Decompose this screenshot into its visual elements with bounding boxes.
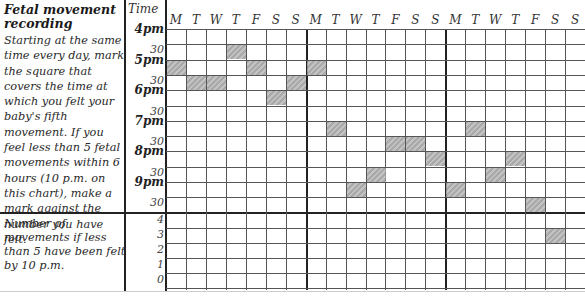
movement-mark[interactable] [347, 183, 366, 197]
grid-column-line [346, 29, 347, 290]
grid-column-line [286, 29, 287, 290]
day-header: F [525, 13, 545, 27]
grid-column-line [326, 29, 327, 290]
grid-row-line [166, 75, 585, 76]
grid-row-line [166, 60, 585, 61]
grid-column-line [485, 29, 486, 290]
time-label: 9pm [135, 175, 164, 189]
day-header: S [425, 13, 445, 27]
movement-mark[interactable] [227, 45, 246, 59]
movement-mark[interactable] [546, 229, 565, 243]
movement-mark[interactable] [267, 91, 286, 105]
day-header: F [246, 13, 266, 27]
time-label: 6pm [135, 83, 164, 97]
grid-row-line [166, 243, 585, 244]
grid-row-line [166, 121, 585, 122]
grid-row-line [166, 273, 585, 274]
grid-column-line [186, 29, 187, 290]
day-header: S [266, 13, 286, 27]
day-header: M [166, 13, 186, 27]
day-header: S [565, 13, 585, 27]
count-label: 0 [157, 273, 164, 286]
day-header: S [545, 13, 565, 27]
count-label: 4 [157, 213, 164, 226]
time-label: 7pm [135, 114, 164, 128]
movement-mark[interactable] [287, 76, 306, 90]
grid-row-line [166, 197, 585, 198]
grid-column-line [545, 29, 546, 290]
day-header: F [385, 13, 405, 27]
grid-row-line [166, 136, 585, 137]
movement-mark[interactable] [327, 122, 346, 136]
movement-mark[interactable] [506, 152, 525, 166]
grid-row-line [166, 29, 585, 30]
movement-mark[interactable] [367, 168, 386, 182]
count-label: 3 [157, 228, 164, 241]
day-header: W [206, 13, 226, 27]
count-instructions-text: Number of movements if less than 5 have … [4, 217, 128, 273]
day-header: T [505, 13, 525, 27]
grid-column-line [445, 29, 447, 290]
movement-mark[interactable] [446, 183, 465, 197]
day-header: M [445, 13, 465, 27]
movement-mark[interactable] [486, 168, 505, 182]
grid-column-line [226, 29, 227, 290]
left-column-divider [124, 0, 126, 291]
recording-grid [166, 29, 585, 290]
grid-column-line [405, 29, 406, 290]
grid-row-line [166, 106, 585, 107]
bottom-rule [0, 291, 585, 292]
count-label: 2 [157, 243, 164, 256]
grid-row-line [166, 182, 585, 183]
day-header: T [465, 13, 485, 27]
movement-mark[interactable] [247, 61, 266, 75]
movement-mark[interactable] [526, 198, 545, 212]
day-header: W [485, 13, 505, 27]
grid-column-line [525, 29, 526, 290]
movement-mark[interactable] [426, 152, 445, 166]
movement-mark[interactable] [386, 137, 405, 151]
count-label: 1 [157, 258, 164, 271]
time-label: 5pm [135, 53, 164, 67]
grid-column-line [206, 29, 207, 290]
chart-title: Fetal movement recording [4, 3, 122, 31]
grid-row-line [166, 288, 585, 289]
day-header: T [226, 13, 246, 27]
grid-column-line [465, 29, 466, 290]
day-header: T [326, 13, 346, 27]
time-header: Time [128, 2, 164, 16]
movement-mark[interactable] [207, 76, 226, 90]
grid-column-line [565, 29, 566, 290]
day-header: T [366, 13, 386, 27]
day-header: W [346, 13, 366, 27]
grid-row-line [166, 228, 585, 229]
instructions-text: Starting at the same time every day, mar… [4, 33, 126, 247]
movement-mark[interactable] [307, 61, 326, 75]
movement-mark[interactable] [187, 76, 206, 90]
movement-mark[interactable] [167, 61, 186, 75]
grid-row-line [166, 90, 585, 91]
time-label: 4pm [135, 22, 164, 36]
grid-column-line [266, 29, 267, 290]
movement-mark[interactable] [406, 137, 425, 151]
grid-row-line [166, 258, 585, 259]
day-header: S [405, 13, 425, 27]
grid-column-line [385, 29, 386, 290]
day-header: M [306, 13, 326, 27]
time-label: 8pm [135, 144, 164, 158]
time-label: 30 [150, 196, 164, 209]
grid-column-line [366, 29, 367, 290]
day-header: T [186, 13, 206, 27]
day-header: S [286, 13, 306, 27]
movement-mark[interactable] [466, 122, 485, 136]
